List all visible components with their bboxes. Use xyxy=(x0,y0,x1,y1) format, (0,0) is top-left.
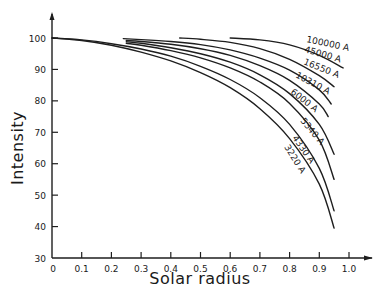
y-tick-label: 60 xyxy=(35,159,47,169)
x-tick-label: 0.3 xyxy=(134,264,148,274)
x-tick-label: 0.9 xyxy=(312,264,327,274)
x-tick-label: 0.2 xyxy=(104,264,118,274)
x-tick-label: 1.0 xyxy=(342,264,357,274)
y-tick-label: 90 xyxy=(35,65,47,75)
x-tick-label: 0 xyxy=(50,264,56,274)
y-tick-label: 70 xyxy=(35,128,47,138)
curve-4330a xyxy=(52,38,334,211)
limb-darkening-chart: 00.10.20.30.40.50.60.70.80.91.0 30405060… xyxy=(0,0,384,295)
y-tick-label: 30 xyxy=(35,254,47,264)
curve-3220a xyxy=(52,38,334,228)
y-axis-ticks: 30405060708090100 xyxy=(29,34,58,264)
y-axis-title: Intensity xyxy=(8,111,27,185)
x-tick-label: 0.1 xyxy=(75,264,89,274)
y-tick-label: 100 xyxy=(29,34,46,44)
x-tick-label: 0.8 xyxy=(282,264,297,274)
curve-labels: 100000 A45000 A16550 A10310 A6000 A5340 … xyxy=(282,34,351,176)
y-tick-label: 50 xyxy=(35,191,47,201)
y-tick-label: 40 xyxy=(35,222,47,232)
y-tick-label: 80 xyxy=(35,96,47,106)
x-axis-title: Solar radius xyxy=(149,269,250,288)
x-tick-label: 0.7 xyxy=(253,264,267,274)
y-axis-arrow-icon xyxy=(50,12,55,20)
x-axis-arrow-icon xyxy=(364,256,373,261)
